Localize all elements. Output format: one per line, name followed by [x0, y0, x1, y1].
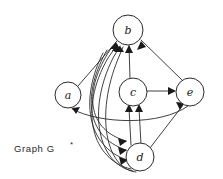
- node-b-label: b: [124, 24, 131, 37]
- arrowhead-c-to-b: [125, 45, 133, 53]
- node-c-label: c: [130, 86, 136, 99]
- arrowhead-a-to-d: [118, 147, 127, 155]
- edge-d-to-c-right: [139, 108, 141, 144]
- node-layer: b a c e d: [55, 15, 204, 171]
- node-a[interactable]: a: [55, 82, 81, 108]
- graph-canvas: b a c e d Graph G *: [0, 0, 223, 179]
- node-d-label: d: [136, 151, 143, 164]
- node-d[interactable]: d: [126, 143, 154, 171]
- arrowhead-b-to-d-outer: [118, 138, 127, 146]
- caption-superscript: *: [70, 140, 73, 149]
- node-c[interactable]: c: [119, 78, 147, 106]
- node-a-label: a: [65, 89, 72, 102]
- arrowhead-e-to-b: [137, 41, 146, 50]
- caption: Graph G *: [14, 140, 73, 154]
- node-b[interactable]: b: [113, 15, 143, 45]
- graph-figure: b a c e d Graph G *: [0, 0, 223, 179]
- caption-label: Graph G: [14, 143, 55, 154]
- node-e-label: e: [187, 86, 194, 99]
- arrowhead-e-to-a: [72, 107, 80, 114]
- arrowhead-c-to-e: [168, 87, 176, 95]
- node-e[interactable]: e: [176, 78, 204, 106]
- edge-e-to-b: [141, 40, 182, 80]
- edge-d-to-c-left: [129, 108, 131, 145]
